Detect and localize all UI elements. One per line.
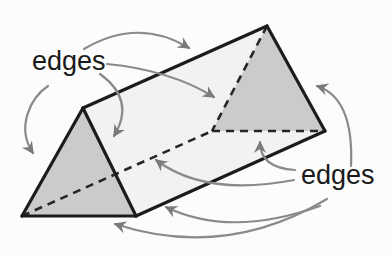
edges-label-right: edges <box>301 160 375 190</box>
edges-label-left: edges <box>32 46 106 76</box>
arrow-to-front-left-edge <box>25 86 48 153</box>
arrow-to-bottom-long-edge <box>166 206 320 222</box>
prism-edges-figure: edges edges <box>0 0 392 256</box>
prism-diagram-svg: edges edges <box>0 0 392 256</box>
